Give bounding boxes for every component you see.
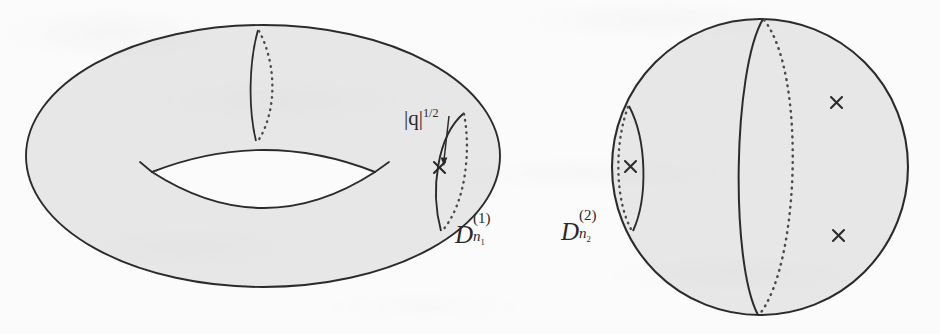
q-label-base: |q| — [404, 106, 423, 130]
torus-figure — [26, 25, 500, 287]
q-label-exponent: 1/2 — [423, 106, 439, 120]
disc-two-label: D(2)(2)n2 — [561, 219, 597, 244]
disc-two-base: D — [561, 218, 579, 245]
disc-two-subscript: n2 — [579, 226, 591, 241]
sphere-surface-fill — [612, 19, 908, 315]
math-figure: |q|1/2 D(1)(1)n1 D(2)(2)n2 — [0, 0, 940, 334]
disc-one-indices: (1)(1)n1 — [473, 222, 491, 247]
q-magnitude-label: |q|1/2 — [404, 108, 438, 129]
disc-one-superscript: (1) — [473, 211, 491, 226]
disc-one-base: D — [455, 221, 473, 248]
torus-surface-fill — [26, 25, 500, 287]
figure-canvas — [0, 0, 940, 334]
disc-two-indices: (2)(2)n2 — [579, 219, 597, 244]
disc-one-label: D(1)(1)n1 — [455, 222, 491, 247]
sphere-figure — [612, 19, 908, 315]
disc-one-subscript: n1 — [473, 229, 485, 244]
disc-two-superscript: (2) — [579, 208, 597, 223]
